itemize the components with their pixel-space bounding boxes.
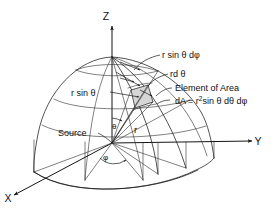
y-axis-label: Y bbox=[254, 135, 261, 147]
spherical-coordinates-figure: Z Y X r sin θ r sin θ dφ rd θ Element of… bbox=[0, 0, 274, 213]
radius-vectors bbox=[112, 71, 190, 143]
base-outer-arc bbox=[34, 170, 198, 189]
radius-label: r bbox=[134, 124, 137, 135]
z-axis-label: Z bbox=[103, 10, 110, 22]
rd-theta-label: rd θ bbox=[170, 69, 186, 79]
text-labels: Z Y X r sin θ r sin θ dφ rd θ Element of… bbox=[4, 10, 261, 204]
area-formula-label: dA = r2sin θ dθ dφ bbox=[175, 95, 247, 106]
x-axis bbox=[14, 143, 112, 195]
r-sin-theta-dphi-label: r sin θ dφ bbox=[162, 50, 200, 60]
hemisphere-base-front-arc bbox=[34, 158, 214, 189]
y-axis bbox=[112, 141, 252, 143]
phi-label: φ bbox=[103, 153, 108, 162]
theta-label: θ bbox=[112, 122, 117, 131]
leader-rd-theta bbox=[148, 74, 168, 86]
r-sin-theta-label: r sin θ bbox=[71, 88, 96, 98]
base-radial-edge-x bbox=[34, 143, 112, 172]
latitude-ring-2 bbox=[54, 99, 190, 109]
element-of-area-label: Element of Area bbox=[175, 83, 239, 93]
figure-canvas: Z Y X r sin θ r sin θ dφ rd θ Element of… bbox=[0, 0, 274, 213]
radius-vector-6 bbox=[112, 100, 190, 143]
area-formula-suffix: sin θ dθ dφ bbox=[202, 96, 247, 106]
hemisphere-left-limb bbox=[34, 57, 112, 172]
figure-caption bbox=[0, 202, 274, 213]
area-formula-prefix: dA = r bbox=[175, 96, 199, 106]
leader-source bbox=[98, 133, 112, 143]
source-label: Source bbox=[58, 128, 87, 138]
latitude-ring-1-back bbox=[76, 65, 158, 72]
leader-da-formula bbox=[157, 100, 170, 104]
base-radial-3 bbox=[112, 143, 158, 174]
base-plane bbox=[34, 143, 198, 189]
base-radial-4 bbox=[112, 143, 186, 168]
